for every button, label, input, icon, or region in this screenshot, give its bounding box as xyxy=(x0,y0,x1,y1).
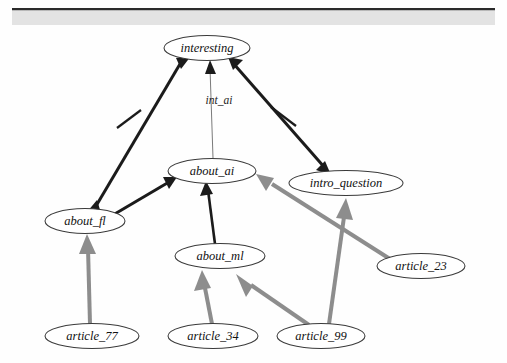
node-label-about_ai: about_ai xyxy=(190,164,235,178)
node-about_ml[interactable]: about_ml xyxy=(175,244,265,269)
edge-about_fl-about_ai[interactable] xyxy=(113,177,177,215)
node-label-article_77: article_77 xyxy=(66,329,118,343)
node-interesting[interactable]: interesting xyxy=(164,36,250,61)
node-article_77[interactable]: article_77 xyxy=(45,324,139,349)
edge-about_ai-interesting[interactable] xyxy=(205,60,216,158)
diagram-page: int_ai interesting about_ai intro_questi… xyxy=(0,0,507,363)
node-label-article_99: article_99 xyxy=(295,329,347,343)
node-article_34[interactable]: article_34 xyxy=(168,324,258,349)
edge-article_99-about_ml[interactable] xyxy=(236,274,309,325)
node-label-interesting: interesting xyxy=(180,41,233,55)
edge-article_34-about_ml[interactable] xyxy=(194,270,212,324)
node-layer: interesting about_ai intro_question abou… xyxy=(45,36,465,349)
node-about_fl[interactable]: about_fl xyxy=(45,209,125,234)
edge-article_99-intro_question[interactable] xyxy=(329,198,353,324)
attack-tick-icon xyxy=(271,107,296,126)
edge-label-int_ai: int_ai xyxy=(206,94,233,106)
node-label-about_fl: about_fl xyxy=(64,214,106,228)
node-intro_question[interactable]: intro_question xyxy=(289,171,403,196)
node-article_23[interactable]: article_23 xyxy=(377,254,465,279)
edge-interesting-intro_question[interactable] xyxy=(228,57,331,175)
node-label-intro_question: intro_question xyxy=(310,176,382,190)
node-label-about_ml: about_ml xyxy=(196,249,244,263)
edge-article_77-about_fl[interactable] xyxy=(79,234,96,324)
edge-about_fl-interesting[interactable] xyxy=(87,56,191,213)
edge-label-layer: int_ai xyxy=(206,94,233,106)
attack-tick-icon xyxy=(117,110,141,128)
edge-about_ml-about_ai[interactable] xyxy=(200,181,215,244)
node-about_ai[interactable]: about_ai xyxy=(168,159,256,184)
node-label-article_34: article_34 xyxy=(187,329,238,343)
graph-canvas: int_ai interesting about_ai intro_questi… xyxy=(0,0,507,363)
node-label-article_23: article_23 xyxy=(395,259,446,273)
node-article_99[interactable]: article_99 xyxy=(277,324,365,349)
